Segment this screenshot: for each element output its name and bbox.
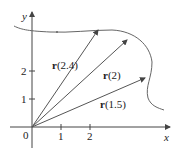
vector-function-diagram: y x 0 1 2 1 2 r(2.4) r(2) r(1.5) — [0, 0, 180, 155]
vector-r-2 — [32, 40, 127, 127]
vector-label-r-2: r(2) — [103, 70, 121, 81]
curve — [14, 26, 164, 110]
origin-label: 0 — [23, 130, 29, 141]
x-axis-label: x — [164, 132, 169, 143]
y-axis-label: y — [22, 11, 27, 22]
vector-label-r-1.5: r(1.5) — [100, 99, 126, 110]
x-tick-label-1: 1 — [58, 131, 64, 142]
y-tick-label-1: 1 — [21, 94, 27, 105]
x-tick-label-2: 2 — [87, 131, 93, 142]
y-tick-label-2: 2 — [21, 66, 27, 77]
vector-label-r-2.4: r(2.4) — [52, 60, 78, 71]
